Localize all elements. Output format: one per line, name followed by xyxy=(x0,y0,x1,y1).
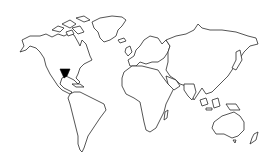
south-america xyxy=(68,92,106,152)
iceland xyxy=(118,38,126,43)
australia xyxy=(212,112,244,138)
madagascar xyxy=(164,110,168,120)
asia xyxy=(166,24,258,100)
arctic-islands xyxy=(52,16,90,36)
se-asia-islands xyxy=(200,98,240,110)
world-map-svg xyxy=(0,0,278,162)
greenland xyxy=(92,16,126,42)
british-isles xyxy=(125,46,132,56)
caribbean xyxy=(72,84,84,87)
europe xyxy=(128,36,170,66)
new-zealand xyxy=(250,132,258,144)
tasmania xyxy=(233,140,236,143)
world-map: World map outline xyxy=(0,0,278,162)
